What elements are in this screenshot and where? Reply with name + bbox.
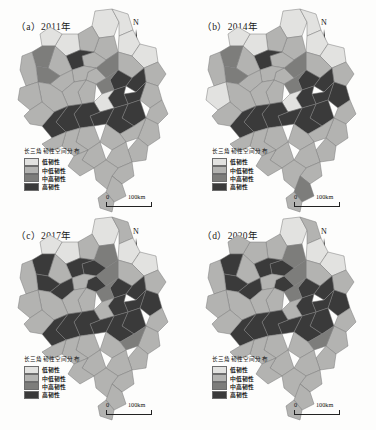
legend-swatch-medlow-b — [212, 166, 227, 174]
legend-item-medhigh-a: 中高韧性 — [24, 175, 80, 183]
legend-item-medhigh-b: 中高韧性 — [212, 175, 268, 183]
scale-tick-end-c — [151, 410, 152, 415]
scale-tick-end-b — [339, 202, 340, 207]
scale-line-b — [294, 206, 340, 207]
legend-item-high-b: 高韧性 — [212, 183, 268, 191]
legend-label-high-b: 高韧性 — [230, 182, 248, 191]
scale-tick-start-b — [294, 202, 295, 207]
legend-swatch-medlow-c — [24, 374, 39, 382]
scale-bar-b: 0 100km — [294, 193, 350, 207]
figure-container: （a）2011年 N — [0, 0, 376, 430]
legend-swatch-low-a — [24, 158, 39, 166]
scale-max-b: 100km — [316, 193, 333, 200]
legend-swatch-medhigh-c — [24, 382, 39, 390]
legend-item-medlow-a: 中低韧性 — [24, 166, 80, 174]
legend-item-medlow-b: 中低韧性 — [212, 166, 268, 174]
scale-max-a: 100km — [128, 193, 145, 200]
scale-line-c — [106, 414, 152, 415]
scale-tick-start-d — [294, 410, 295, 415]
legend-title-c: 长三角韧性空间分布 — [24, 355, 80, 363]
legend-title-b: 长三角韧性空间分布 — [212, 147, 268, 155]
legend-a: 长三角韧性空间分布 低韧性 中低韧性 中高韧性 高韧性 — [24, 147, 80, 191]
scale-tick-start-a — [106, 202, 107, 207]
legend-label-high-a: 高韧性 — [42, 182, 60, 191]
map-panel-c: （c）2017年 N — [0, 215, 188, 430]
scale-tick-end-d — [339, 410, 340, 415]
legend-item-medlow-c: 中低韧性 — [24, 374, 80, 382]
legend-swatch-high-b — [212, 183, 227, 191]
legend-item-high-a: 高韧性 — [24, 183, 80, 191]
legend-item-medlow-d: 中低韧性 — [212, 374, 268, 382]
legend-swatch-medhigh-a — [24, 174, 39, 182]
scale-bar-a: 0 100km — [106, 193, 162, 207]
legend-swatch-medhigh-d — [212, 382, 227, 390]
legend-title-d: 长三角韧性空间分布 — [212, 355, 268, 363]
scale-tick-start-c — [106, 410, 107, 415]
map-panel-b: （b）2014年 N — [188, 0, 376, 215]
scale-max-c: 100km — [128, 401, 145, 408]
legend-item-medhigh-d: 中高韧性 — [212, 383, 268, 391]
legend-item-low-c: 低韧性 — [24, 366, 80, 374]
legend-item-low-d: 低韧性 — [212, 366, 268, 374]
scale-line-d — [294, 414, 340, 415]
legend-item-medhigh-c: 中高韧性 — [24, 383, 80, 391]
legend-swatch-low-b — [212, 158, 227, 166]
scale-bar-d: 0 100km — [294, 401, 350, 415]
legend-title-a: 长三角韧性空间分布 — [24, 147, 80, 155]
legend-item-high-d: 高韧性 — [212, 391, 268, 399]
legend-label-high-d: 高韧性 — [230, 390, 248, 399]
legend-item-low-a: 低韧性 — [24, 158, 80, 166]
legend-swatch-high-d — [212, 391, 227, 399]
map-panel-d: （d）2020年 N — [188, 215, 376, 430]
legend-item-high-c: 高韧性 — [24, 391, 80, 399]
scale-tick-end-a — [151, 202, 152, 207]
scale-line-a — [106, 206, 152, 207]
scale-zero-c: 0 — [106, 401, 109, 408]
scale-bar-c: 0 100km — [106, 401, 162, 415]
legend-d: 长三角韧性空间分布 低韧性 中低韧性 中高韧性 高韧性 — [212, 355, 268, 399]
legend-swatch-medlow-a — [24, 166, 39, 174]
legend-swatch-low-c — [24, 366, 39, 374]
legend-b: 长三角韧性空间分布 低韧性 中低韧性 中高韧性 高韧性 — [212, 147, 268, 191]
legend-swatch-medhigh-b — [212, 174, 227, 182]
scale-zero-b: 0 — [294, 193, 297, 200]
legend-label-high-c: 高韧性 — [42, 390, 60, 399]
map-panel-a: （a）2011年 N — [0, 0, 188, 215]
legend-swatch-high-a — [24, 183, 39, 191]
legend-swatch-high-c — [24, 391, 39, 399]
legend-item-low-b: 低韧性 — [212, 158, 268, 166]
scale-zero-d: 0 — [294, 401, 297, 408]
scale-max-d: 100km — [316, 401, 333, 408]
scale-zero-a: 0 — [106, 193, 109, 200]
legend-swatch-low-d — [212, 366, 227, 374]
legend-c: 长三角韧性空间分布 低韧性 中低韧性 中高韧性 高韧性 — [24, 355, 80, 399]
legend-swatch-medlow-d — [212, 374, 227, 382]
